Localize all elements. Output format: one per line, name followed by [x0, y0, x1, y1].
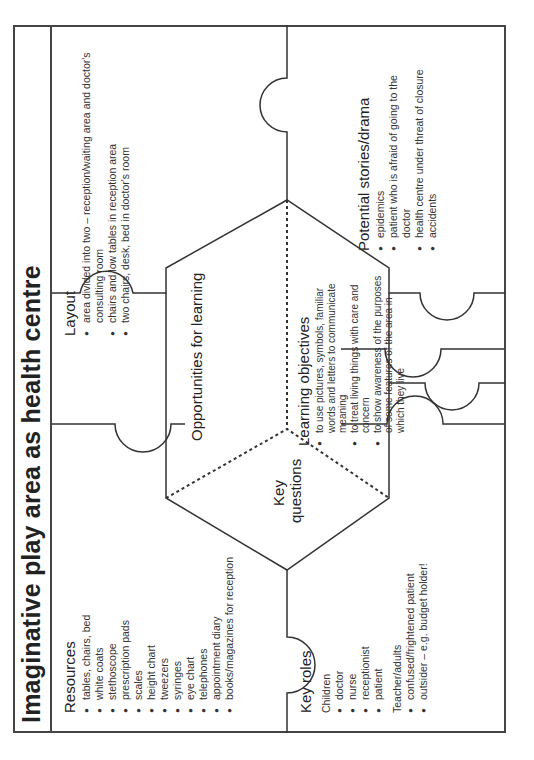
- key-questions-line-2: questions: [287, 463, 304, 523]
- list-item: outsider – e.g. budget holder!: [417, 513, 430, 713]
- list-item: prescription pads: [119, 513, 132, 713]
- list-item: nurse: [346, 513, 359, 713]
- resources-heading: Resources: [61, 513, 78, 713]
- list-item: tweezers: [158, 513, 171, 713]
- list-item: to use pictures, symbols, familiar words…: [314, 271, 349, 446]
- list-item: accidents: [426, 51, 439, 251]
- layout-heading: Layout: [61, 46, 78, 336]
- list-item: chairs and low tables in reception area: [106, 46, 119, 336]
- opportunities-label: Opportunities for learning: [188, 273, 205, 441]
- children-label: Children: [320, 513, 333, 713]
- layout-section: Layout area divided into two – reception…: [61, 46, 132, 336]
- list-item: appointment diary: [210, 513, 223, 713]
- list-item: area divided into two – reception/waitin…: [80, 46, 106, 336]
- list-item: confused/frightened patient: [404, 513, 417, 713]
- list-item: patient who is afraid of going to the do…: [387, 51, 413, 251]
- list-item: scales: [132, 513, 145, 713]
- learning-objectives-section: Learning objectives to use pictures, sym…: [295, 271, 406, 446]
- key-questions-label: Key questions: [270, 463, 304, 523]
- potential-stories-section: Potential stories/drama epidemics patien…: [355, 51, 439, 251]
- list-item: patient: [372, 513, 385, 713]
- list-item: books/magazines for reception: [223, 513, 236, 713]
- list-item: two chairs, desk, bed in doctor's room: [119, 46, 132, 336]
- document-page: Imaginative play area as health centre R…: [13, 25, 506, 733]
- list-item: doctor: [333, 513, 346, 713]
- list-item: height chart: [145, 513, 158, 713]
- key-questions-line-1: Key: [270, 463, 287, 523]
- list-item: receptionist: [359, 513, 372, 713]
- learning-objectives-heading: Learning objectives: [295, 271, 312, 446]
- key-roles-heading: Key roles: [297, 513, 314, 713]
- list-item: stethoscope: [106, 513, 119, 713]
- adults-label: Teacher/adults: [391, 513, 404, 713]
- list-item: white coats: [93, 513, 106, 713]
- list-item: health centre under threat of closure: [413, 51, 426, 251]
- list-item: telephones: [197, 513, 210, 713]
- list-item: to treat living things with care and con…: [349, 271, 372, 446]
- list-item: tables, chairs, bed: [80, 513, 93, 713]
- list-item: eye chart: [184, 513, 197, 713]
- list-item: to show awareness of the purposes of som…: [372, 271, 407, 446]
- potential-stories-heading: Potential stories/drama: [355, 51, 372, 251]
- list-item: epidemics: [374, 51, 387, 251]
- resources-section: Resources tables, chairs, bed white coat…: [61, 513, 236, 713]
- list-item: syringes: [171, 513, 184, 713]
- key-roles-section: Key roles Children doctor nurse receptio…: [297, 513, 430, 713]
